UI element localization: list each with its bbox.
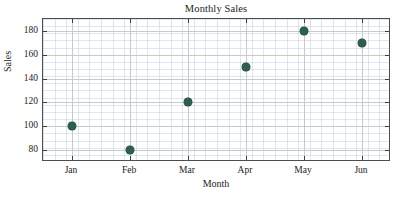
x-tick-mark xyxy=(362,156,363,160)
x-tick-label: May xyxy=(294,165,311,176)
minor-gridlines xyxy=(43,19,389,160)
x-axis-title: Month xyxy=(42,178,390,190)
data-point-marker xyxy=(358,39,366,47)
x-tick-mark xyxy=(188,19,189,23)
y-tick-label: 100 xyxy=(0,120,38,130)
x-tick-mark xyxy=(304,19,305,23)
y-tick-mark xyxy=(385,150,389,151)
y-tick-mark xyxy=(385,55,389,56)
y-tick-label: 180 xyxy=(0,25,38,35)
x-tick-label: Jun xyxy=(354,165,367,176)
x-tick-label: Jan xyxy=(65,165,78,176)
y-axis-title: Sales xyxy=(2,51,14,72)
y-tick-mark xyxy=(43,102,47,103)
gridline-vertical xyxy=(72,19,73,160)
data-point-marker xyxy=(126,146,134,154)
gridline-horizontal xyxy=(43,102,389,103)
y-tick-mark xyxy=(385,31,389,32)
gridline-horizontal xyxy=(43,31,389,32)
plot-area xyxy=(42,18,390,161)
y-tick-mark xyxy=(385,79,389,80)
data-point-marker xyxy=(242,63,250,71)
y-tick-label: 80 xyxy=(0,144,38,154)
x-tick-mark xyxy=(246,156,247,160)
x-tick-mark xyxy=(188,156,189,160)
x-tick-mark xyxy=(72,19,73,23)
gridline-horizontal xyxy=(43,55,389,56)
data-point-marker xyxy=(68,122,76,130)
x-tick-label: Feb xyxy=(122,165,136,176)
gridline-horizontal xyxy=(43,126,389,127)
gridline-horizontal xyxy=(43,79,389,80)
data-point-marker xyxy=(184,98,192,106)
x-tick-mark xyxy=(246,19,247,23)
y-tick-label: 140 xyxy=(0,73,38,83)
y-tick-mark xyxy=(43,55,47,56)
x-tick-label: Mar xyxy=(179,165,195,176)
gridline-vertical xyxy=(246,19,247,160)
y-tick-mark xyxy=(43,126,47,127)
y-tick-mark xyxy=(385,126,389,127)
x-tick-label: Apr xyxy=(238,165,253,176)
data-point-marker xyxy=(300,27,308,35)
gridline-horizontal xyxy=(43,150,389,151)
gridline-vertical xyxy=(304,19,305,160)
y-tick-mark xyxy=(385,102,389,103)
x-tick-mark xyxy=(72,156,73,160)
y-tick-label: 120 xyxy=(0,96,38,106)
x-tick-mark xyxy=(362,19,363,23)
chart-figure: Monthly Sales 80100120140160180 JanFebMa… xyxy=(0,0,399,197)
y-tick-mark xyxy=(43,150,47,151)
gridline-vertical xyxy=(188,19,189,160)
y-tick-mark xyxy=(43,31,47,32)
chart-title: Monthly Sales xyxy=(42,2,390,15)
gridline-vertical xyxy=(130,19,131,160)
x-tick-mark xyxy=(304,156,305,160)
x-tick-mark xyxy=(130,19,131,23)
x-tick-mark xyxy=(130,156,131,160)
y-tick-mark xyxy=(43,79,47,80)
